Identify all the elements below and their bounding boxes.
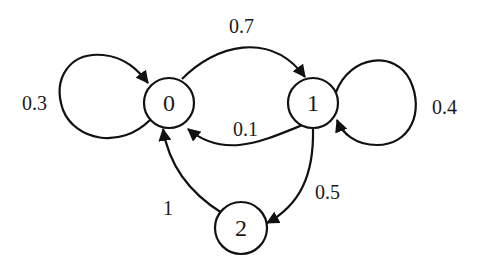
node-1-label: 1 — [307, 90, 319, 116]
edge-1-to-1: 0.4 — [336, 60, 457, 145]
edge-label-1-to-1: 0.4 — [432, 96, 457, 118]
edge-label-0-to-0: 0.3 — [22, 92, 47, 114]
edge-label-1-to-0: 0.1 — [233, 118, 258, 140]
edge-label-1-to-2: 0.5 — [315, 181, 340, 203]
edge-1-to-2: 0.5 — [267, 129, 340, 223]
node-0: 0 — [144, 78, 194, 128]
node-1: 1 — [288, 78, 338, 128]
edge-label-2-to-0: 1 — [163, 197, 173, 219]
node-2-label: 2 — [235, 215, 247, 241]
edge-label-0-to-1: 0.7 — [229, 15, 254, 37]
node-2: 2 — [215, 202, 267, 254]
node-0-label: 0 — [163, 90, 175, 116]
markov-chain-diagram: 0.3 0.7 0.4 0.1 0.5 1 0 1 2 — [0, 0, 477, 270]
edge-0-to-1: 0.7 — [182, 15, 305, 79]
edge-1-to-0: 0.1 — [188, 118, 305, 145]
edge-0-to-0: 0.3 — [22, 55, 150, 138]
